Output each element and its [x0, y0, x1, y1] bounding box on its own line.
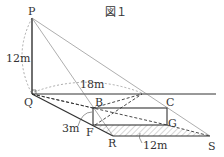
dash-q-b: [32, 94, 93, 108]
label-g: G: [168, 117, 177, 130]
measure-rs: 12m: [143, 139, 168, 152]
label-c: C: [166, 96, 174, 109]
figure-title: 図１: [105, 6, 127, 19]
label-p: P: [28, 5, 36, 18]
measure-pq: 12m: [6, 52, 31, 65]
ray-p-r: [32, 18, 113, 136]
label-f: F: [86, 126, 94, 139]
measure-bf: 3m: [62, 122, 80, 135]
geometry-diagram: 図１ P Q B C F G R S 12m 18m 3m 12m: [0, 0, 224, 157]
label-b: B: [95, 96, 103, 109]
shadow-region: [95, 125, 210, 136]
label-r: R: [108, 137, 117, 150]
ray-p-s: [32, 18, 210, 136]
measure-18m: 18m: [80, 78, 105, 91]
label-s: S: [208, 140, 216, 153]
label-q: Q: [24, 96, 33, 109]
